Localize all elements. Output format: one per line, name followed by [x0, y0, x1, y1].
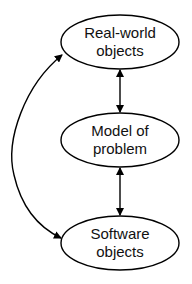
node-label-line2: problem	[93, 140, 147, 157]
node-label-line1: Model of	[91, 122, 149, 139]
diagram-canvas: Real-world objects Model of problem Soft…	[0, 0, 192, 284]
node-label-line1: Software	[90, 225, 149, 242]
node-model-of-problem: Model of problem	[61, 113, 179, 167]
node-real-world-objects: Real-world objects	[61, 15, 179, 69]
node-software-objects: Software objects	[61, 216, 179, 270]
node-label-line1: Real-world	[84, 24, 156, 41]
edge-real-software-curved-arrow	[12, 55, 62, 238]
node-label-line2: objects	[96, 243, 144, 260]
node-label-line2: objects	[96, 42, 144, 59]
